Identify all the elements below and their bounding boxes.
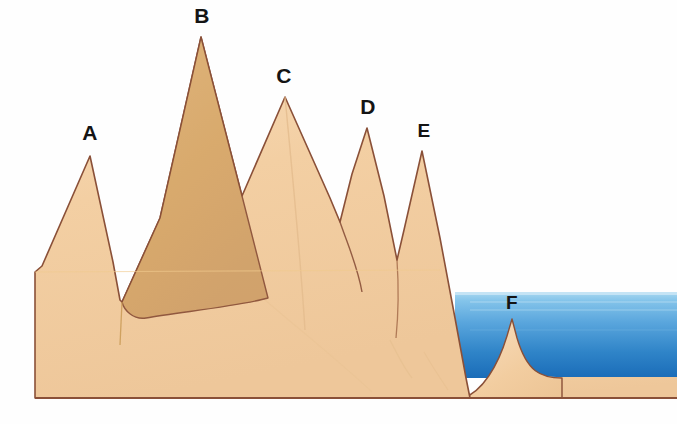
diagram-canvas: A B C D E F <box>0 0 677 424</box>
peak-b-shape <box>122 37 268 318</box>
peak-label-f: F <box>506 293 518 312</box>
mountain-profile-svg <box>0 0 677 424</box>
peak-label-a-text: A <box>82 121 98 144</box>
peak-label-e-text: E <box>417 120 430 141</box>
peak-label-a: A <box>82 122 98 143</box>
peak-label-c: C <box>276 65 292 86</box>
peak-label-c-text: C <box>276 64 292 87</box>
land-mass <box>35 37 470 398</box>
peak-label-b: B <box>194 5 210 26</box>
peak-label-b-text: B <box>194 4 210 27</box>
peak-label-d-text: D <box>360 95 376 118</box>
peak-label-d: D <box>360 96 376 117</box>
peak-label-f-text: F <box>506 292 518 313</box>
water-body <box>455 292 677 378</box>
peak-label-e: E <box>417 121 430 140</box>
